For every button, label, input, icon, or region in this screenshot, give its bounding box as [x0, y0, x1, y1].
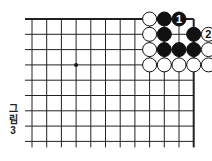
- black-stone: [157, 12, 171, 26]
- white-stone: [143, 27, 157, 41]
- go-board: 12: [0, 0, 212, 161]
- black-stone: [172, 43, 186, 57]
- white-stone: [143, 43, 157, 57]
- white-stone: [157, 58, 171, 72]
- white-stone: [201, 43, 212, 57]
- move-number-label: 1: [176, 13, 182, 25]
- star-point: [74, 63, 78, 67]
- black-stone: [187, 43, 201, 57]
- white-stone: [143, 12, 157, 26]
- white-stone: [187, 58, 201, 72]
- black-stone: [157, 43, 171, 57]
- figure-caption: 그 림 3: [6, 103, 20, 136]
- black-stone: [157, 27, 171, 41]
- caption-number: 3: [6, 125, 20, 136]
- caption-char-2: 림: [6, 114, 20, 125]
- white-stone: [201, 58, 212, 72]
- white-stone: [143, 58, 157, 72]
- white-stone: [172, 58, 186, 72]
- move-number-label: 2: [205, 28, 211, 40]
- caption-char-1: 그: [6, 103, 20, 114]
- black-stone: [187, 27, 201, 41]
